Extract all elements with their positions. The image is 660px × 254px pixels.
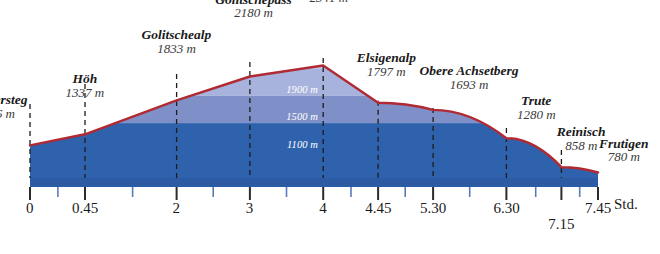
elevation-band-2300 xyxy=(0,46,660,68)
waypoint-elsighorn: Elsighorn2341 m xyxy=(301,0,357,5)
band-label-1900: 1900 m xyxy=(255,84,318,95)
waypoint-golitschepass: Golitschepass2180 m xyxy=(215,0,292,20)
x-tick-label-0: 0 xyxy=(26,200,34,217)
x-tick-label-7-45: 7.45 xyxy=(585,200,611,217)
x-tick-label-0-45: 0.45 xyxy=(72,200,98,217)
waypoint-name: Golitschealp xyxy=(142,28,212,42)
waypoint-h-h: Höh1337 m xyxy=(65,72,104,99)
x-axis-unit-label: Std. xyxy=(614,196,638,213)
waypoint-golitschealp: Golitschealp1833 m xyxy=(142,28,212,55)
waypoint-elevation: 2341 m xyxy=(301,0,357,5)
waypoint-elevation: 1176 m xyxy=(0,107,28,120)
waypoint-elevation: 1797 m xyxy=(357,65,416,78)
x-tick-label-4-45: 4.45 xyxy=(365,200,391,217)
elevation-profile-chart: 2300 m1900 m1500 m1100 m Kandersteg1176 … xyxy=(0,0,660,254)
x-tick-label-5-30: 5.30 xyxy=(420,200,446,217)
waypoint-name: Trute xyxy=(517,94,556,108)
waypoint-name: Elsigenalp xyxy=(357,51,416,65)
waypoint-frutigen: Frutigen780 m xyxy=(599,137,649,164)
x-tick-label-4: 4 xyxy=(319,200,327,217)
waypoint-obere-achsetberg: Obere Achsetberg1693 m xyxy=(420,64,519,91)
x-axis-ticks xyxy=(30,187,598,200)
x-tick-label-6-30: 6.30 xyxy=(493,200,519,217)
waypoint-elevation: 2180 m xyxy=(215,6,292,19)
waypoint-elevation: 1693 m xyxy=(420,78,519,91)
waypoint-name: Obere Achsetberg xyxy=(420,64,519,78)
band-label-1100: 1100 m xyxy=(255,139,318,150)
x-tick-label-2: 2 xyxy=(173,200,181,217)
waypoint-name: Kandersteg xyxy=(0,93,28,107)
waypoint-name: Frutigen xyxy=(599,137,649,151)
x-tick-label-7-15: 7.15 xyxy=(548,216,574,233)
band-label-2300: 2300 m xyxy=(255,56,318,67)
axis-bar xyxy=(30,178,598,187)
waypoint-trute: Trute1280 m xyxy=(517,94,556,121)
waypoint-elevation: 1833 m xyxy=(142,42,212,55)
waypoint-elevation: 1337 m xyxy=(65,86,104,99)
elevation-band-fills xyxy=(0,46,660,178)
waypoint-name: Höh xyxy=(65,72,104,86)
band-label-1500: 1500 m xyxy=(255,111,318,122)
x-tick-label-3: 3 xyxy=(246,200,254,217)
waypoint-kandersteg: Kandersteg1176 m xyxy=(0,93,28,120)
waypoint-elsigenalp: Elsigenalp1797 m xyxy=(357,51,416,78)
waypoint-elevation: 1280 m xyxy=(517,108,556,121)
waypoint-elevation: 780 m xyxy=(599,150,649,163)
